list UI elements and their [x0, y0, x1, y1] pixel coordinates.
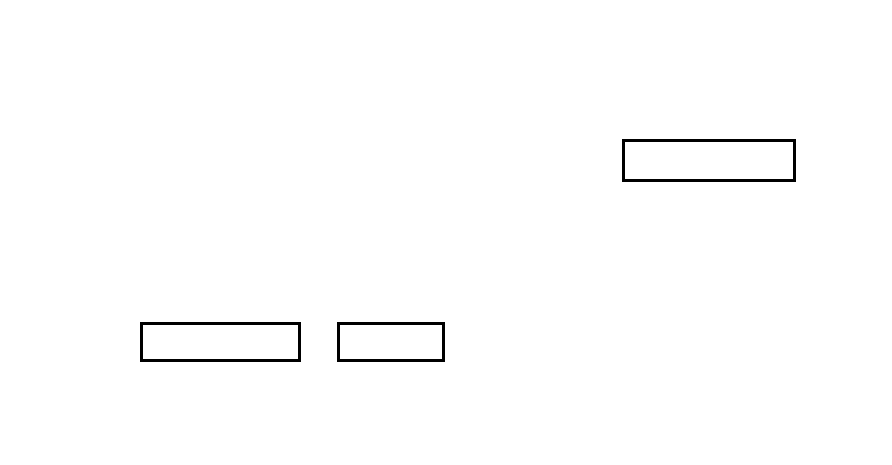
callout-unemployment: [140, 322, 301, 362]
callout-misery-index: [622, 139, 796, 182]
callout-inflation: [337, 322, 445, 362]
misery-index-figure: [0, 0, 892, 465]
chart-canvas: [0, 0, 892, 465]
